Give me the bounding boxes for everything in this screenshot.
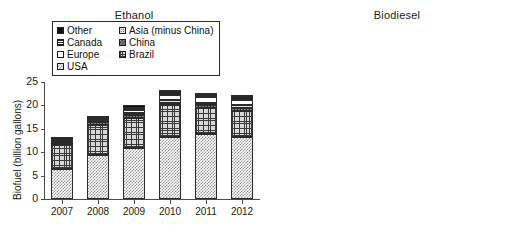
bar-segment-europe	[159, 95, 181, 101]
table-row	[123, 82, 145, 199]
x-axis-line	[44, 199, 260, 200]
bar-segment-asia-minus-china	[195, 103, 217, 105]
bar-segment-europe	[51, 139, 73, 141]
bar-segment-other	[51, 137, 73, 139]
table-row	[159, 82, 181, 199]
bar-segment-china	[195, 105, 217, 108]
legend-label-europe: Europe	[67, 49, 99, 60]
swatch-brazil-icon	[119, 51, 126, 58]
bar-segment-europe	[231, 100, 253, 106]
swatch-other-icon	[57, 27, 64, 34]
legend-label-brazil: Brazil	[129, 49, 154, 60]
y-tick	[41, 152, 45, 153]
bar-segment-brazil	[231, 111, 253, 137]
bar-segment-brazil	[123, 118, 145, 149]
y-tick-label: 25	[10, 75, 38, 87]
biodiesel-chart-panel: Biodiesel 012345620072008200920102011 Ot…	[268, 0, 526, 238]
bar-segment-other	[87, 116, 109, 118]
bar-segment-other	[195, 93, 217, 95]
bar-segment-brazil	[87, 125, 109, 156]
y-tick-label: 5	[10, 169, 38, 181]
x-tick	[242, 200, 243, 204]
bar-segment-usa	[159, 137, 181, 199]
y-tick-label: 10	[10, 145, 38, 157]
swatch-canada-icon	[57, 39, 64, 46]
x-tick	[98, 200, 99, 204]
swatch-usa-icon	[57, 63, 64, 70]
table-row	[231, 82, 253, 199]
bar-segment-brazil	[159, 105, 181, 137]
x-tick-label: 2012	[220, 206, 264, 217]
swatch-china-icon	[119, 39, 126, 46]
x-tick	[170, 200, 171, 204]
bar-segment-china	[123, 115, 145, 117]
y-tick-label: 0	[10, 192, 38, 204]
bar-segment-canada	[123, 108, 145, 110]
bar-segment-brazil	[51, 145, 73, 168]
y-tick	[41, 199, 45, 200]
y-tick-label: 20	[10, 98, 38, 110]
y-tick	[41, 129, 45, 130]
y-tick	[41, 176, 45, 177]
y-tick	[41, 105, 45, 106]
bar-segment-usa	[123, 148, 145, 199]
legend-item-other: Other	[57, 25, 119, 36]
y-tick	[41, 82, 45, 83]
y-tick-label: 15	[10, 122, 38, 134]
bar-segment-canada	[231, 97, 253, 99]
bar-segment-asia-minus-china	[123, 113, 145, 115]
swatch-europe-icon	[57, 51, 64, 58]
ethanol-plot-area	[44, 82, 260, 199]
bar-segment-usa	[87, 155, 109, 199]
legend-label-china: China	[129, 37, 155, 48]
legend-item-asia: Asia (minus China)	[119, 25, 213, 36]
bar-segment-europe	[195, 97, 217, 103]
bar-segment-other	[123, 105, 145, 107]
bar-segment-other	[159, 90, 181, 93]
bar-segment-brazil	[195, 108, 217, 134]
bar-segment-china	[231, 108, 253, 111]
bar-segment-china	[159, 103, 181, 105]
bar-segment-asia-minus-china	[231, 105, 253, 107]
bar-segment-europe	[87, 119, 109, 121]
legend-item-usa: USA	[57, 61, 119, 72]
ethanol-chart-title: Ethanol	[0, 9, 268, 21]
bar-segment-canada	[159, 92, 181, 94]
bar-segment-europe	[123, 110, 145, 114]
x-tick	[62, 200, 63, 204]
bar-segment-china	[87, 122, 109, 124]
bar-segment-china	[51, 143, 73, 145]
biodiesel-chart-title: Biodiesel	[268, 9, 526, 21]
ethanol-legend: Other Asia (minus China) Canada China Eu…	[52, 21, 220, 76]
swatch-asia-icon	[119, 27, 126, 34]
legend-label-other: Other	[67, 25, 92, 36]
table-row	[195, 82, 217, 199]
table-row	[87, 82, 109, 199]
legend-item-china: China	[119, 37, 155, 48]
bar-segment-other	[231, 95, 253, 97]
bar-segment-canada	[195, 95, 217, 97]
bar-segment-usa	[51, 169, 73, 199]
bar-segment-usa	[195, 134, 217, 199]
legend-label-usa: USA	[67, 61, 88, 72]
legend-item-canada: Canada	[57, 37, 119, 48]
table-row	[51, 82, 73, 199]
x-tick	[134, 200, 135, 204]
legend-item-europe: Europe	[57, 49, 119, 60]
legend-label-canada: Canada	[67, 37, 102, 48]
y-axis-line	[44, 82, 45, 199]
bar-segment-asia-minus-china	[159, 100, 181, 102]
x-tick	[206, 200, 207, 204]
legend-label-asia: Asia (minus China)	[129, 25, 213, 36]
legend-item-brazil: Brazil	[119, 49, 154, 60]
biodiesel-plot-area	[298, 44, 504, 199]
ethanol-chart-panel: Ethanol Biofuel (billion gallons) 051015…	[0, 0, 268, 238]
bar-segment-usa	[231, 137, 253, 199]
